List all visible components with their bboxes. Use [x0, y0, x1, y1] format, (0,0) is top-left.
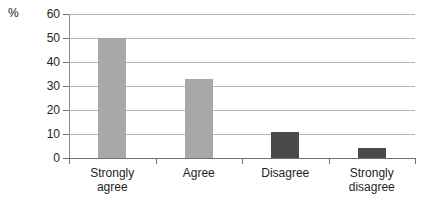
bar [358, 148, 386, 158]
bar [98, 38, 126, 158]
y-axis-tick-label: 50 [24, 32, 60, 44]
x-axis-category-label-line: Disagree [242, 166, 329, 180]
y-axis-tick-mark [63, 14, 69, 15]
y-axis-tick-mark [63, 86, 69, 87]
x-axis-category-label: Disagree [242, 166, 329, 180]
y-axis-unit-label: % [8, 7, 19, 19]
x-axis-category-label: Stronglydisagree [329, 166, 416, 194]
x-axis-category-label-line: Strongly [329, 166, 416, 180]
x-axis-category-label: Stronglyagree [69, 166, 156, 194]
y-axis-tick-mark [63, 134, 69, 135]
x-axis-tick-mark [69, 159, 70, 164]
gridline [69, 14, 415, 15]
bar [185, 79, 213, 158]
y-axis-tick-mark [63, 110, 69, 111]
bar-chart-figure: % 0102030405060StronglyagreeAgreeDisagre… [0, 0, 430, 202]
x-axis-category-label-line: agree [69, 180, 156, 194]
bar [271, 132, 299, 158]
plot-area [69, 14, 415, 158]
x-axis-category-label: Agree [156, 166, 243, 180]
y-axis-tick-mark [63, 62, 69, 63]
y-axis-tick-mark [63, 38, 69, 39]
x-axis-tick-mark [242, 159, 243, 164]
x-axis-category-label-line: disagree [329, 180, 416, 194]
y-axis-tick-label: 30 [24, 80, 60, 92]
y-axis-tick-label: 20 [24, 104, 60, 116]
y-axis-tick-label: 40 [24, 56, 60, 68]
y-axis-tick-label: 0 [24, 152, 60, 164]
x-axis-tick-mark [156, 159, 157, 164]
x-axis-tick-mark [329, 159, 330, 164]
x-axis-category-label-line: Agree [156, 166, 243, 180]
y-axis-tick-label: 60 [24, 8, 60, 20]
y-axis-tick-label: 10 [24, 128, 60, 140]
x-axis-end-tick-mark [415, 159, 416, 164]
x-axis-category-label-line: Strongly [69, 166, 156, 180]
